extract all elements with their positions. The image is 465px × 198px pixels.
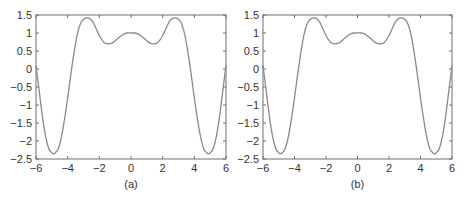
figure-canvas: −6−4−202461.510.50−0.5−1−1.5−2−2.5 −6−4−… [0,0,465,198]
x-tick-label: 6 [449,162,455,174]
x-tick-label: 2 [386,162,392,174]
x-tick-label: −4 [288,162,301,174]
y-tick-label: 0 [26,63,32,75]
y-tick-label: −1.5 [237,117,259,129]
y-tick-label: 0.5 [244,45,259,57]
axes-frame [263,15,452,159]
x-tick-label: −2 [320,162,333,174]
data-curve [263,18,452,154]
y-tick-label: −0.5 [237,81,259,93]
x-tick-label: 0 [354,162,360,174]
y-tick-label: −2.5 [10,153,32,165]
x-tick-label: 6 [223,162,229,174]
y-tick-label: −1.5 [10,117,32,129]
axes-frame [36,15,226,159]
x-tick-label: −4 [61,162,74,174]
y-tick-label: −2.5 [237,153,259,165]
figure: −6−4−202461.510.50−0.5−1−1.5−2−2.5 −6−4−… [0,0,465,198]
y-tick-label: −2 [19,135,32,147]
x-tick-label: 4 [417,162,423,174]
x-tick-label: 4 [191,162,197,174]
y-tick-label: −0.5 [10,81,32,93]
x-tick-label: 0 [128,162,134,174]
y-tick-label: 0 [253,63,259,75]
panel-a-plot: −6−4−202461.510.50−0.5−1−1.5−2−2.5 [10,9,229,174]
y-tick-label: 1.5 [244,9,259,21]
data-curve [36,18,226,154]
y-tick-label: 1 [253,27,259,39]
panel-b-plot: −6−4−202461.510.50−0.5−1−1.5−2−2.5 [237,9,455,174]
y-tick-label: −1 [246,99,259,111]
y-tick-label: 1 [26,27,32,39]
panel-b-caption: (b) [338,178,378,190]
y-tick-label: 1.5 [17,9,32,21]
x-tick-label: −2 [93,162,106,174]
y-tick-label: −2 [246,135,259,147]
y-tick-label: 0.5 [17,45,32,57]
panel-a-caption: (a) [111,178,151,190]
y-tick-label: −1 [19,99,32,111]
x-tick-label: 2 [160,162,166,174]
